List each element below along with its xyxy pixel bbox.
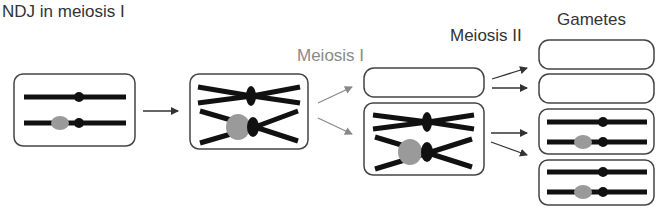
arrow-2a bbox=[318, 87, 352, 103]
gamete-2 bbox=[539, 74, 654, 103]
metaphase-i-cell bbox=[190, 74, 308, 149]
parent-cell bbox=[14, 74, 135, 146]
arrow-2b bbox=[318, 118, 352, 134]
gamete-4 bbox=[539, 160, 654, 205]
meiosis-i-empty-cell bbox=[364, 68, 484, 97]
gamete-3 bbox=[539, 109, 654, 154]
arrow-3d bbox=[491, 142, 527, 155]
gamete-1 bbox=[539, 40, 654, 69]
meiosis-i-full-cell bbox=[364, 103, 484, 175]
arrow-3a bbox=[492, 68, 527, 79]
ndj-diagram bbox=[0, 0, 664, 212]
